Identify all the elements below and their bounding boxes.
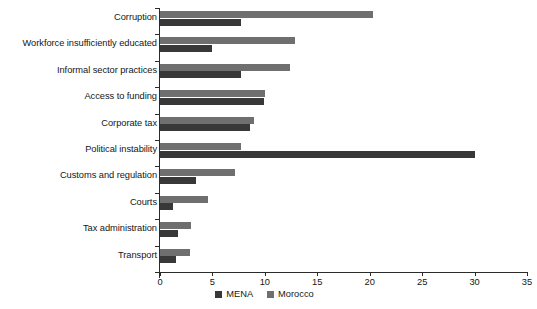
category-label: Informal sector practices — [0, 65, 157, 75]
category-label: Transport — [0, 250, 157, 260]
bar-mena — [160, 124, 250, 131]
legend-swatch-icon — [267, 291, 274, 298]
y-axis-tick — [155, 61, 160, 62]
x-axis-tick — [212, 272, 213, 276]
y-axis-tick — [155, 166, 160, 167]
bar-mena — [160, 151, 475, 158]
legend-swatch-icon — [215, 291, 222, 298]
y-axis-tick — [155, 87, 160, 88]
category-label: Courts — [0, 197, 157, 207]
category-label: Customs and regulation — [0, 170, 157, 180]
bar-morocco — [160, 196, 208, 203]
bar-morocco — [160, 169, 235, 176]
category-label: Access to funding — [0, 91, 157, 101]
category-label: Workforce insufficiently educated — [0, 38, 157, 48]
category-label: Corruption — [0, 12, 157, 22]
x-axis-line — [160, 272, 527, 273]
chart-legend: MENAMorocco — [0, 289, 529, 299]
bar-mena — [160, 177, 196, 184]
x-axis-tick-label: 20 — [358, 277, 382, 288]
bar-morocco — [160, 222, 191, 229]
bar-mena — [160, 256, 176, 263]
bar-morocco — [160, 37, 295, 44]
legend-label: Morocco — [278, 289, 314, 299]
category-label: Tax administration — [0, 223, 157, 233]
y-axis-tick — [155, 34, 160, 35]
plot-area — [160, 8, 527, 272]
x-axis-tick — [317, 272, 318, 276]
legend-label: MENA — [226, 289, 253, 299]
x-axis-tick — [370, 272, 371, 276]
x-axis-tick-label: 5 — [200, 277, 224, 288]
x-axis-tick-label: 15 — [305, 277, 329, 288]
bar-morocco — [160, 64, 290, 71]
category-axis-labels: CorruptionWorkforce insufficiently educa… — [0, 0, 157, 272]
y-axis-tick — [155, 140, 160, 141]
x-axis-tick-label: 10 — [253, 277, 277, 288]
x-axis-tick — [422, 272, 423, 276]
x-axis-tick-label: 25 — [410, 277, 434, 288]
y-axis-tick — [155, 246, 160, 247]
x-axis-tick-label: 0 — [148, 277, 172, 288]
bar-mena — [160, 98, 264, 105]
y-axis-tick — [155, 8, 160, 9]
x-axis-tick — [527, 272, 528, 276]
bar-morocco — [160, 90, 265, 97]
bar-morocco — [160, 249, 190, 256]
legend-item: MENA — [215, 289, 253, 299]
y-axis-tick — [155, 219, 160, 220]
y-axis-tick — [155, 193, 160, 194]
x-axis-tick-label: 35 — [515, 277, 537, 288]
category-label: Corporate tax — [0, 118, 157, 128]
bar-mena — [160, 45, 212, 52]
legend-item: Morocco — [267, 289, 314, 299]
bar-morocco — [160, 143, 241, 150]
x-axis-tick — [160, 272, 161, 276]
x-axis-tick-label: 30 — [463, 277, 487, 288]
bar-mena — [160, 203, 173, 210]
bar-morocco — [160, 11, 373, 18]
y-axis-tick — [155, 114, 160, 115]
bar-mena — [160, 19, 241, 26]
bar-mena — [160, 71, 241, 78]
bar-morocco — [160, 117, 254, 124]
x-axis-tick — [475, 272, 476, 276]
category-label: Political instability — [0, 144, 157, 154]
bar-mena — [160, 230, 178, 237]
x-axis-tick — [265, 272, 266, 276]
